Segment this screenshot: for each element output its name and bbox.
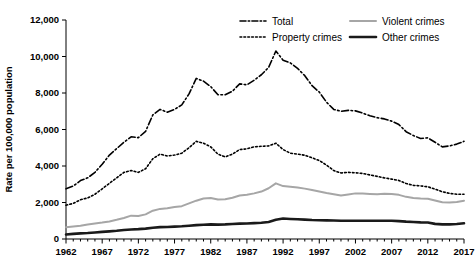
y-axis-title: Rate per 100,000 population	[3, 66, 14, 192]
x-tick-label: 1972	[128, 246, 149, 257]
y-tick-label: 0	[54, 233, 59, 244]
series-line-other-crimes	[66, 219, 464, 235]
x-tick-label: 1992	[273, 246, 294, 257]
x-tick-label: 2007	[381, 246, 402, 257]
y-tick-label: 4,000	[35, 160, 59, 171]
x-tick-label: 2012	[417, 246, 438, 257]
y-axis-tick-labels: 02,0004,0006,0008,00010,00012,000	[30, 14, 59, 244]
chart-legend: TotalProperty crimesViolent crimesOther …	[240, 16, 445, 43]
chart-canvas: 02,0004,0006,0008,00010,00012,000 Rate p…	[0, 0, 475, 271]
x-tick-label: 1977	[164, 246, 185, 257]
x-tick-label: 1962	[55, 246, 76, 257]
x-axis-tick-labels: 1962196719721977198219871992199720022007…	[55, 246, 474, 257]
legend-label-property-crimes: Property crimes	[272, 32, 342, 43]
x-tick-label: 1967	[92, 246, 113, 257]
y-axis-ticks	[62, 20, 66, 239]
y-axis-group: 02,0004,0006,0008,00010,00012,000 Rate p…	[3, 14, 66, 244]
data-series-group	[66, 51, 464, 234]
legend-label-total: Total	[272, 16, 293, 27]
x-axis-group: 1962196719721977198219871992199720022007…	[55, 239, 474, 257]
x-axis-ticks	[66, 239, 464, 244]
y-tick-label: 8,000	[35, 87, 59, 98]
x-tick-label: 1997	[309, 246, 330, 257]
x-tick-label: 1982	[200, 246, 221, 257]
series-line-total	[66, 51, 464, 189]
y-tick-label: 6,000	[35, 124, 59, 135]
y-tick-label: 2,000	[35, 197, 59, 208]
legend-label-other-crimes: Other crimes	[382, 32, 439, 43]
legend-label-violent-crimes: Violent crimes	[382, 16, 445, 27]
x-tick-label: 2002	[345, 246, 366, 257]
y-tick-label: 10,000	[30, 51, 59, 62]
y-tick-label: 12,000	[30, 14, 59, 25]
crime-rate-line-chart: 02,0004,0006,0008,00010,00012,000 Rate p…	[0, 0, 475, 271]
x-tick-label: 1987	[236, 246, 257, 257]
x-tick-label: 2017	[453, 246, 474, 257]
